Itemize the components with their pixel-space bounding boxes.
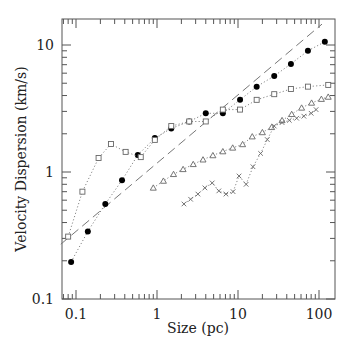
filled-circle-marker <box>119 177 125 183</box>
open-square-marker <box>238 107 243 112</box>
open-square-marker <box>138 155 143 160</box>
open-triangle-marker <box>249 134 255 139</box>
cross-marker <box>302 114 307 119</box>
open-triangle-marker <box>160 178 166 183</box>
cross-marker <box>203 186 208 191</box>
cross-marker <box>294 116 299 121</box>
x-tick-label: 1 <box>153 306 162 322</box>
open-square-marker <box>203 119 208 124</box>
x-tick-label: 100 <box>306 306 333 322</box>
open-square-marker <box>80 189 85 194</box>
series-filled-circles <box>68 39 328 265</box>
open-square-marker <box>187 119 192 124</box>
dashed-fit-path <box>61 24 322 244</box>
filled-circle-marker <box>203 110 209 116</box>
filled-circle-marker <box>305 48 311 54</box>
open-square-marker <box>66 234 71 239</box>
velocity-size-chart: 0.1110100 0.1110 Size (pc) Velocity Disp… <box>0 0 352 347</box>
open-triangle-marker <box>171 171 177 176</box>
cross-marker <box>244 182 249 187</box>
filled-circle-marker <box>102 201 108 207</box>
cross-marker <box>287 118 292 123</box>
open-triangle-marker <box>210 152 216 157</box>
cross-marker <box>265 137 270 142</box>
dashed-fit-line <box>61 24 322 244</box>
open-triangle-marker <box>318 96 324 101</box>
x-tick-label: 10 <box>229 306 247 322</box>
open-triangle-marker <box>325 94 331 99</box>
x-axis-label: Size (pc) <box>167 320 229 336</box>
cross-marker <box>231 189 236 194</box>
open-square-marker <box>254 97 259 102</box>
cross-marker <box>258 151 263 156</box>
filled-circle-marker <box>271 73 277 79</box>
cross-marker <box>309 111 314 116</box>
y-tick-label: 10 <box>36 37 54 53</box>
cross-marker <box>182 202 187 207</box>
open-square-marker <box>326 82 331 87</box>
open-square-marker <box>288 87 293 92</box>
cross-marker <box>217 189 222 194</box>
filled-circle-marker <box>322 39 328 45</box>
open-triangle-marker <box>230 145 236 150</box>
data-series <box>66 39 332 265</box>
open-triangle-marker <box>299 105 305 110</box>
open-square-marker <box>96 155 101 160</box>
open-triangle-marker <box>190 161 196 166</box>
open-square-marker <box>152 137 157 142</box>
open-triangle-marker <box>150 185 156 190</box>
filled-circle-marker <box>254 84 260 90</box>
open-triangle-marker <box>309 100 315 105</box>
open-square-marker <box>123 149 128 154</box>
open-square-marker <box>220 107 225 112</box>
x-tick-label: 0.1 <box>65 306 87 322</box>
open-square-marker <box>272 92 277 97</box>
filled-circle-marker <box>68 259 74 265</box>
open-square-marker <box>108 142 113 147</box>
y-tick-label: 1 <box>45 164 54 180</box>
cross-marker <box>188 197 193 202</box>
y-tick-label: 0.1 <box>32 291 54 307</box>
open-square-marker <box>169 124 174 129</box>
cross-marker <box>210 181 215 186</box>
plot-frame <box>62 19 335 299</box>
series-crosses <box>182 107 319 206</box>
open-triangle-marker <box>180 166 186 171</box>
open-triangle-marker <box>289 111 295 116</box>
open-square-marker <box>305 84 310 89</box>
cross-marker <box>251 164 256 169</box>
cross-marker <box>196 192 201 197</box>
filled-circle-marker <box>85 229 91 235</box>
filled-circle-marker <box>237 97 243 103</box>
cross-marker <box>314 107 319 112</box>
series-open-squares <box>66 82 331 239</box>
cross-marker <box>237 174 242 179</box>
filled-circle-marker <box>288 61 294 67</box>
open-triangle-marker <box>259 129 265 134</box>
open-triangle-marker <box>200 157 206 162</box>
y-axis-label: Velocity Dispersion (km/s) <box>13 66 29 252</box>
open-triangle-marker <box>220 149 226 154</box>
